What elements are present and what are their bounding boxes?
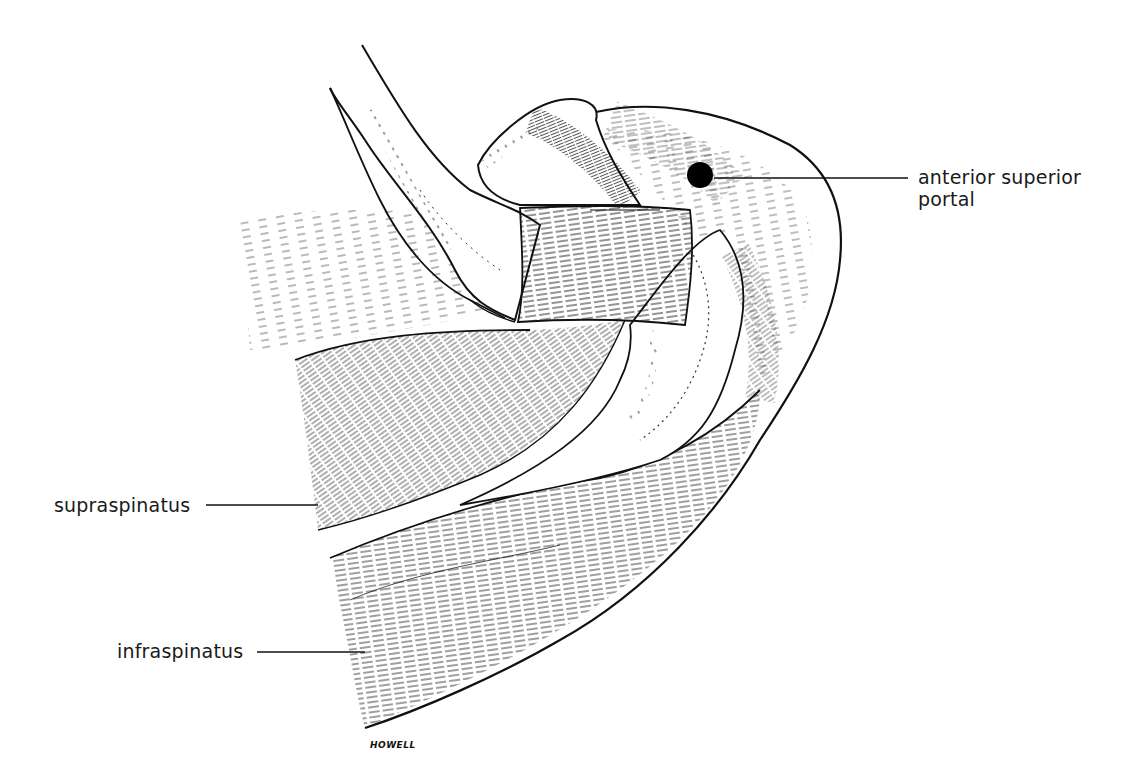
label-infraspinatus: infraspinatus [117,640,243,662]
label-line-1: infraspinatus [117,640,243,662]
anatomy-illustration [0,0,1142,781]
label-line-2: portal [918,188,1081,210]
label-line-1: supraspinatus [54,494,190,516]
label-anterior-superior-portal: anterior superior portal [918,166,1081,210]
artist-signature: HOWELL [370,740,416,750]
label-line-1: anterior superior [918,166,1081,188]
portal-marker-dot [687,162,713,188]
label-supraspinatus: supraspinatus [54,494,190,516]
